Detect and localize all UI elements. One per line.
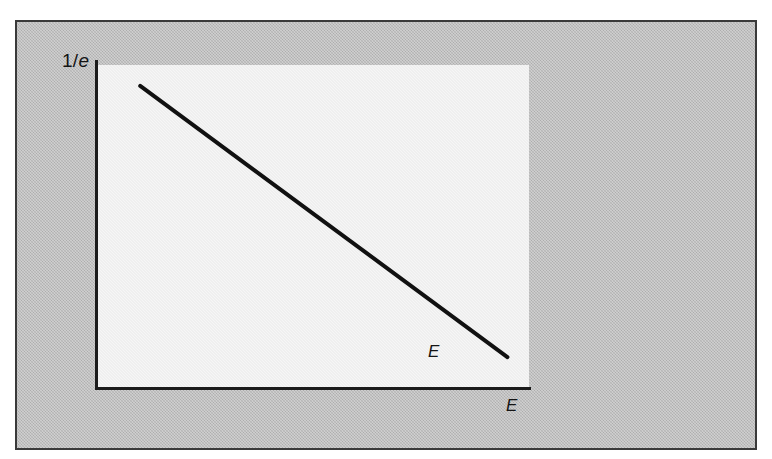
y-axis-label-one-over-e: 1/e xyxy=(62,51,89,70)
x-axis-line xyxy=(95,387,531,390)
cropped-header-text xyxy=(390,0,690,11)
y-axis-label-prefix: 1/ xyxy=(62,50,78,71)
curve-end-label-e: E xyxy=(428,343,439,360)
plot-area xyxy=(97,65,529,387)
y-axis-label-italic-e: e xyxy=(78,50,89,71)
y-axis-line xyxy=(95,60,98,390)
x-axis-label-e: E xyxy=(506,397,517,414)
figure-panel: 1/e E E xyxy=(15,20,757,450)
